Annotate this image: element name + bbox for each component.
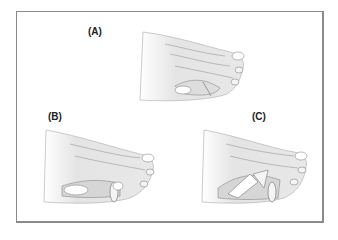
foot-illustration-a [135, 26, 250, 104]
foot-illustration-b [40, 126, 160, 206]
panel-label-b: (B) [48, 111, 62, 122]
panel-label-a: (A) [88, 26, 102, 37]
panel-label-c: (C) [252, 111, 266, 122]
foot-illustration-c [198, 126, 313, 206]
